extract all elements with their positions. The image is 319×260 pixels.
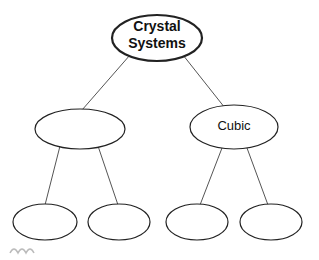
root-label: Crystal Systems	[112, 18, 202, 52]
decorative-squiggle-icon	[10, 249, 34, 253]
node-l2-3	[166, 204, 228, 240]
root-label-line2: Systems	[112, 35, 202, 52]
edge-left-lr	[98, 146, 118, 205]
node-l1-left	[35, 109, 125, 149]
edge-right-rr	[247, 148, 268, 205]
edge-left-ll	[45, 146, 60, 205]
edge-root-right	[183, 55, 225, 108]
node-l2-2	[88, 204, 150, 240]
l1-cubic-label: Cubic	[190, 118, 278, 133]
node-l2-1	[13, 204, 77, 240]
node-l2-4	[240, 204, 302, 240]
edge-right-rl	[200, 148, 222, 205]
root-label-line1: Crystal	[112, 18, 202, 35]
edge-root-left	[82, 55, 130, 110]
